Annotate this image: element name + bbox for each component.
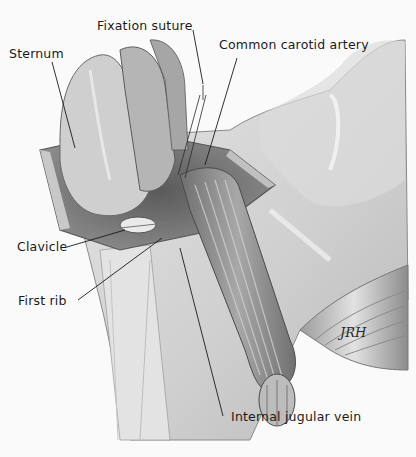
artist-signature: JRH: [340, 325, 366, 340]
label-internal-jugular-vein: Internal jugular vein: [231, 410, 361, 424]
anatomical-figure: Fixation suture Common carotid artery St…: [0, 0, 416, 457]
label-clavicle: Clavicle: [17, 240, 67, 254]
surgical-drawing: [0, 0, 416, 457]
label-fixation-suture: Fixation suture: [97, 19, 193, 33]
label-common-carotid-artery: Common carotid artery: [219, 38, 369, 52]
label-sternum: Sternum: [9, 47, 64, 61]
label-first-rib: First rib: [18, 294, 67, 308]
